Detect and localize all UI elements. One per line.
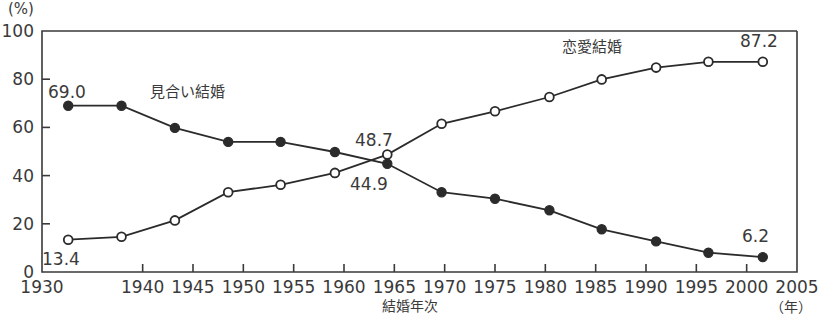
data-point-arranged	[64, 101, 73, 110]
data-label-arranged-first: 69.0	[48, 84, 86, 101]
data-point-arranged	[597, 225, 606, 234]
y-tick-label: 80	[0, 71, 34, 88]
x-tick-label: 1970	[417, 279, 473, 296]
data-point-love	[597, 75, 606, 84]
data-label-arranged-mid: 44.9	[350, 176, 388, 193]
plot-frame	[42, 31, 797, 272]
x-tick-label: 1930	[14, 279, 70, 296]
data-point-love	[383, 150, 392, 159]
data-label-arranged-last: 6.2	[742, 228, 769, 245]
x-tick-label: 1945	[165, 279, 221, 296]
x-axis-title: 結婚年次	[350, 299, 470, 313]
x-tick-label: 1995	[668, 279, 724, 296]
x-tick-label: 1990	[618, 279, 674, 296]
data-point-arranged	[383, 159, 392, 168]
data-point-love	[704, 57, 713, 66]
data-point-love	[117, 232, 126, 241]
series-label-arranged: 見合い結婚	[150, 85, 225, 100]
data-point-love	[545, 93, 554, 102]
data-point-arranged	[170, 123, 179, 132]
data-point-arranged	[704, 248, 713, 257]
data-point-arranged	[490, 194, 499, 203]
data-point-love	[491, 107, 500, 116]
x-tick-label: 2005	[769, 279, 822, 296]
data-label-love-first: 13.4	[42, 251, 80, 268]
data-point-love	[276, 180, 285, 189]
data-point-love	[437, 119, 446, 128]
data-point-arranged	[758, 253, 767, 262]
x-tick-label: 1940	[115, 279, 171, 296]
y-tick-label: 20	[0, 216, 34, 233]
x-tick-label: 2000	[719, 279, 775, 296]
y-axis-unit-label: (%)	[8, 2, 34, 17]
y-tick-label: 60	[0, 119, 34, 136]
data-point-love	[224, 188, 233, 197]
x-tick-label: 1965	[366, 279, 422, 296]
series-label-love: 恋愛結婚	[562, 40, 622, 55]
data-point-love	[652, 63, 661, 72]
x-axis-ticks	[143, 264, 747, 272]
data-point-arranged	[117, 101, 126, 110]
data-point-love	[331, 169, 340, 178]
x-tick-label: 1960	[316, 279, 372, 296]
data-point-love	[171, 216, 180, 225]
data-label-love-last: 87.2	[740, 33, 778, 50]
data-point-love	[64, 235, 73, 244]
y-tick-label: 100	[0, 23, 34, 40]
x-tick-label: 1985	[568, 279, 624, 296]
data-point-arranged	[652, 237, 661, 246]
x-tick-label: 1975	[467, 279, 523, 296]
plot-border	[42, 31, 797, 272]
x-axis-unit-label: （年）	[770, 300, 812, 314]
x-tick-label: 1950	[215, 279, 271, 296]
data-point-arranged	[545, 206, 554, 215]
y-tick-label: 40	[0, 168, 34, 185]
data-label-love-mid: 48.7	[355, 132, 393, 149]
x-tick-label: 1955	[266, 279, 322, 296]
data-point-arranged	[437, 188, 446, 197]
data-point-arranged	[330, 147, 339, 156]
data-point-love	[758, 57, 767, 66]
x-tick-label: 1980	[517, 279, 573, 296]
data-point-arranged	[276, 137, 285, 146]
data-point-arranged	[224, 137, 233, 146]
